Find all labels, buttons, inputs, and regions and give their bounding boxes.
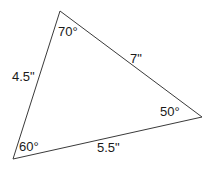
angle-label-top: 70° [58,25,78,38]
side-label-top-right: 7" [130,52,142,65]
triangle-outline [13,11,202,159]
triangle-diagram: 70° 60° 50° 4.5" 7" 5.5" [0,0,210,173]
side-label-bottom: 5.5" [97,141,120,154]
angle-label-bottom-left: 60° [19,140,39,153]
angle-label-right: 50° [160,105,180,118]
side-label-left: 4.5" [12,70,35,83]
